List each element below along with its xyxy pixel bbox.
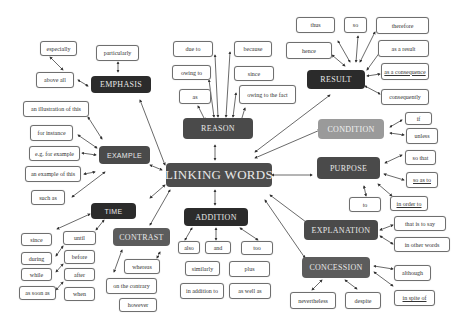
leaf-due-to: due to (173, 41, 213, 57)
leaf-in-spite-of: in spite of (394, 290, 435, 306)
category-example: EXAMPLE (99, 146, 150, 164)
leaf-text: consequently (389, 94, 421, 100)
leaf-text: although (402, 270, 423, 276)
category-addition: ADDITION (184, 208, 248, 226)
leaf-similarly: similarly (185, 261, 220, 276)
leaf-text: on the contrary (113, 283, 149, 289)
leaf-text: as soon as (25, 290, 49, 296)
leaf-eg-for-example: e.g. for example (29, 146, 80, 161)
leaf-text: for instance (37, 130, 65, 136)
category-label: PURPOSE (330, 164, 367, 173)
category-label: EMPHASIS (100, 80, 142, 89)
leaf-text: so as to (413, 177, 431, 183)
leaf-so-that: so that (405, 150, 436, 165)
leaf-although: although (394, 265, 431, 281)
leaf-text: an example of this (31, 171, 75, 177)
leaf-on-the-contrary: on the contrary (106, 278, 157, 294)
center-title: LINKING WORDS (165, 167, 273, 183)
leaf-text: nevertheless (298, 298, 328, 304)
leaf-as-a-result: as a result (378, 40, 429, 57)
category-label: CONCESSION (309, 263, 362, 272)
category-label: REASON (201, 124, 235, 133)
category-label: ADDITION (195, 213, 237, 222)
leaf-in-addition-to: in addition to (180, 283, 224, 299)
leaf-text: so (353, 22, 358, 28)
leaf-text: however (128, 302, 149, 308)
leaf-text: during (29, 256, 45, 262)
leaf-text: despite (355, 298, 372, 304)
leaf-since: since (234, 66, 274, 81)
category-label: CONTRAST (119, 233, 164, 242)
leaf-an-example-of-this: an example of this (25, 166, 81, 182)
leaf-however: however (119, 298, 157, 312)
leaf-text: and (214, 245, 223, 251)
leaf-text: as well as (238, 288, 261, 294)
leaf-owing-to: owing to (172, 65, 211, 80)
leaf-text: because (244, 46, 263, 52)
category-contrast: CONTRAST (113, 228, 170, 246)
leaf-so: so (344, 17, 367, 33)
leaf-after: after (64, 268, 95, 281)
leaf-an-illustration-of-this: an illustration of this (23, 101, 89, 117)
category-time: TIME (91, 203, 136, 219)
leaf-to: to (349, 197, 381, 212)
leaf-text: unless (415, 133, 430, 139)
leaf-text: while (30, 272, 43, 278)
leaf-text: until (74, 235, 85, 241)
leaf-text: in other words (405, 242, 440, 248)
category-explanation: EXPLANATION (304, 220, 378, 240)
leaf-text: especially (47, 46, 71, 52)
leaf-especially: especially (40, 41, 77, 56)
category-emphasis: EMPHASIS (91, 76, 151, 93)
leaf-text: above all (44, 77, 66, 83)
leaf-text: owing to (181, 70, 202, 76)
leaf-whereas: whereas (124, 259, 160, 274)
leaf-text: particularly (104, 50, 132, 56)
leaf-text: e.g. for example (35, 151, 74, 157)
leaf-too: too (241, 241, 273, 255)
leaf-if: if (405, 112, 432, 125)
leaf-owing-to-the-fact: owing to the fact (239, 85, 296, 104)
leaf-that-is-to-say: that is to say (394, 216, 446, 231)
leaf-plus: plus (229, 261, 270, 277)
category-reason: REASON (183, 118, 253, 139)
leaf-text: similarly (192, 266, 213, 272)
leaf-text: plus (244, 266, 254, 272)
leaf-and: and (205, 241, 231, 254)
category-label: CONDITION (327, 125, 374, 134)
leaf-as-well-as: as well as (229, 283, 271, 299)
leaf-text: too (253, 245, 261, 251)
category-label: EXPLANATION (312, 226, 371, 235)
leaf-as: as (179, 89, 211, 104)
leaf-particularly: particularly (96, 45, 139, 61)
category-label: TIME (105, 208, 123, 215)
leaf-text: as (193, 94, 198, 100)
leaf-in-order-to: in order to (390, 196, 428, 211)
category-label: EXAMPLE (107, 152, 142, 159)
category-concession: CONCESSION (302, 257, 370, 278)
leaf-such-as: such as (31, 190, 65, 205)
leaf-text: hence (302, 48, 316, 54)
linking-words-mind-map: LINKING WORDS EMPHASIS especially partic… (0, 0, 465, 328)
leaf-text: as a result (392, 46, 416, 52)
leaf-for-instance: for instance (30, 125, 73, 141)
leaf-text: whereas (132, 264, 152, 270)
leaf-in-other-words: in other words (394, 237, 450, 252)
leaf-text: due to (186, 46, 201, 52)
category-label: RESULT (320, 75, 351, 84)
leaf-until: until (63, 231, 96, 245)
leaf-so-as-to: so as to (406, 172, 438, 188)
leaf-text: also (184, 245, 194, 251)
leaf-because: because (234, 41, 272, 57)
leaf-text: such as (39, 195, 57, 201)
leaf-above-all: above all (36, 72, 74, 88)
leaf-when: when (64, 287, 95, 301)
leaf-text: since (30, 237, 42, 243)
leaf-consequently: consequently (381, 89, 429, 105)
leaf-unless: unless (406, 128, 438, 144)
leaf-text: after (74, 272, 85, 278)
leaf-despite: despite (345, 292, 381, 309)
leaf-as-soon-as: as soon as (19, 286, 56, 300)
leaf-text: an illustration of this (31, 106, 81, 112)
leaf-text: owing to the fact (247, 92, 288, 98)
